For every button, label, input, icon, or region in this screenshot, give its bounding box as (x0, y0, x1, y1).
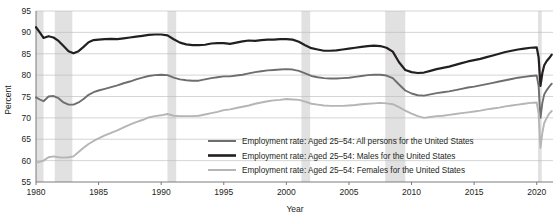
x-axis-tick-labels: 198019851990199520002005201020152020 (27, 182, 547, 197)
chart-canvas: 556065707580859095 198019851990199520002… (0, 0, 559, 218)
x-tick-label-1990: 1990 (152, 187, 171, 197)
x-tick-label-1980: 1980 (27, 187, 46, 197)
x-tick-label-1995: 1995 (214, 187, 233, 197)
legend-label-0: Employment rate: Aged 25–54: All persons… (242, 137, 474, 146)
series-line-1 (36, 27, 552, 86)
y-axis-title: Percent (3, 85, 13, 115)
legend-label-1: Employment rate: Aged 25–54: Males for t… (242, 152, 455, 161)
y-tick-label-70: 70 (22, 113, 32, 123)
y-tick-label-85: 85 (22, 49, 32, 59)
x-tick-label-2020: 2020 (527, 187, 546, 197)
chart-legend: Employment rate: Aged 25–54: All persons… (208, 137, 474, 175)
y-tick-label-65: 65 (22, 134, 32, 144)
x-tick-label-2015: 2015 (465, 187, 484, 197)
y-tick-label-60: 60 (22, 156, 32, 166)
y-axis-tick-labels: 556065707580859095 (22, 6, 32, 187)
y-tick-label-90: 90 (22, 27, 32, 37)
x-tick-label-1985: 1985 (89, 187, 108, 197)
x-tick-label-2010: 2010 (402, 187, 421, 197)
y-tick-label-95: 95 (22, 6, 32, 16)
y-tick-label-55: 55 (22, 177, 32, 187)
y-tick-label-75: 75 (22, 92, 32, 102)
x-axis-title: Year (286, 204, 303, 214)
employment-rate-line-chart: 556065707580859095 198019851990199520002… (0, 0, 559, 218)
y-tick-label-80: 80 (22, 70, 32, 80)
legend-label-2: Employment rate: Aged 25–54: Females for… (242, 166, 465, 175)
x-tick-label-2000: 2000 (277, 187, 296, 197)
x-tick-label-2005: 2005 (339, 187, 358, 197)
